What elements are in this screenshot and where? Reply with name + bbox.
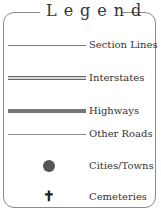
dot-icon [43, 160, 55, 172]
legend-label: Section Lines [89, 38, 158, 52]
cross-icon: ✝ [43, 188, 55, 204]
legend-item-cemeteries: ✝ Cemeteries [0, 190, 161, 204]
legend-label: Interstates [89, 71, 144, 85]
legend-label: Cities/Towns [89, 159, 154, 173]
legend-item-highways: Highways [0, 104, 161, 118]
interstate-line-symbol [8, 76, 86, 80]
legend-item-interstates: Interstates [0, 71, 161, 85]
legend-label: Other Roads [89, 127, 153, 141]
legend-item-section-lines: Section Lines [0, 38, 161, 52]
legend-label: Highways [89, 104, 139, 118]
legend-item-cities-towns: Cities/Towns [0, 159, 161, 173]
legend-label: Cemeteries [89, 190, 147, 204]
legend-item-other-roads: Other Roads [0, 127, 161, 141]
highway-line-symbol [8, 109, 86, 113]
section-line-symbol [8, 45, 86, 46]
legend-title: Legend [40, 0, 122, 22]
other-road-line-symbol [8, 134, 86, 135]
